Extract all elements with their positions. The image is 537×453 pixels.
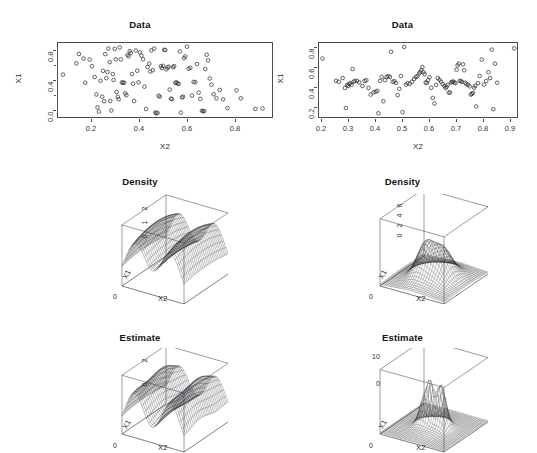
ztick-label: 10 bbox=[372, 353, 380, 360]
panel-title: Density bbox=[0, 176, 280, 187]
surface-plot-estimate-left bbox=[108, 348, 228, 453]
xtick-label: 0.6 bbox=[175, 124, 199, 133]
x-axis-label: X2 bbox=[158, 294, 168, 303]
origin-label: 0 bbox=[369, 293, 373, 300]
xtick-mark bbox=[348, 119, 349, 122]
ytick-label: 0.6 bbox=[307, 69, 316, 91]
x-axis-label: X2 bbox=[145, 142, 185, 151]
scatter-plot-frame-right bbox=[318, 42, 518, 118]
xtick-label: 0.3 bbox=[336, 124, 360, 133]
ytick-label: 0.0 bbox=[46, 112, 55, 134]
origin-label: 0 bbox=[113, 293, 117, 300]
y-axis-label: X1 bbox=[276, 67, 285, 91]
xtick-label: 0.8 bbox=[471, 124, 495, 133]
x-axis-label: X2 bbox=[416, 443, 426, 452]
surface-plot-density-left bbox=[108, 194, 228, 304]
scatter-plot-frame-left bbox=[57, 42, 273, 118]
panel-data-right: Data 0.8 0.6 0.4 0.2 0.2 0.3 0.4 0.5 0.6… bbox=[268, 14, 537, 169]
panel-density-left: Density 2 1 0 0 X2 X1 bbox=[0, 172, 280, 322]
xtick-mark bbox=[91, 119, 92, 122]
y-axis-label: X1 bbox=[14, 67, 23, 91]
xtick-label: 0.9 bbox=[498, 124, 522, 133]
panel-estimate-right: Estimate 10 0 0 X2 X1 bbox=[268, 330, 537, 453]
xtick-mark bbox=[187, 119, 188, 122]
panel-title: Data bbox=[0, 19, 280, 30]
x-axis-label: X2 bbox=[416, 294, 426, 303]
panel-title: Density bbox=[268, 176, 537, 187]
origin-label: 0 bbox=[369, 442, 373, 449]
xtick-label: 0.4 bbox=[363, 124, 387, 133]
surface-plot-density-right bbox=[364, 194, 488, 304]
x-axis-label: X2 bbox=[398, 142, 438, 151]
xtick-label: 0.4 bbox=[127, 124, 151, 133]
xtick-mark bbox=[456, 119, 457, 122]
ztick-label: 0 bbox=[141, 235, 148, 251]
xtick-mark bbox=[235, 119, 236, 122]
xtick-label: 0.8 bbox=[223, 124, 247, 133]
xtick-mark bbox=[375, 119, 376, 122]
surface-plot-estimate-right bbox=[364, 348, 488, 453]
panel-title: Estimate bbox=[0, 332, 280, 343]
panel-density-right: Density 6 4 2 0 0 X2 X1 bbox=[268, 172, 537, 322]
ztick-label: 0 bbox=[376, 380, 380, 387]
panel-title: Estimate bbox=[268, 332, 537, 343]
xtick-mark bbox=[483, 119, 484, 122]
x-axis-label: X2 bbox=[158, 443, 168, 452]
ztick-label: 0 bbox=[396, 234, 403, 250]
panel-data-left: Data 0.8 0.4 0.0 0.2 0.4 0.6 0.8 X2 X1 bbox=[0, 14, 280, 169]
panel-estimate-left: Estimate 2 0 0 X2 X1 bbox=[0, 330, 280, 453]
ztick-label: 0 bbox=[141, 383, 148, 399]
xtick-mark bbox=[139, 119, 140, 122]
panel-title: Data bbox=[268, 19, 537, 30]
xtick-label: 0.2 bbox=[79, 124, 103, 133]
ztick-label: 2 bbox=[141, 359, 148, 375]
scatter-points-left bbox=[58, 43, 272, 117]
ytick-label: 0.8 bbox=[307, 49, 316, 71]
ytick-label: 0.8 bbox=[46, 52, 55, 74]
xtick-mark bbox=[510, 119, 511, 122]
xtick-mark bbox=[321, 119, 322, 122]
xtick-label: 0.6 bbox=[417, 124, 441, 133]
ytick-label: 0.4 bbox=[307, 89, 316, 111]
origin-label: 0 bbox=[113, 442, 117, 449]
xtick-mark bbox=[429, 119, 430, 122]
figure-page: Data 0.8 0.4 0.0 0.2 0.4 0.6 0.8 X2 X1 D… bbox=[0, 0, 537, 453]
xtick-label: 0.7 bbox=[444, 124, 468, 133]
xtick-label: 0.2 bbox=[309, 124, 333, 133]
scatter-points-right bbox=[319, 43, 517, 117]
ytick-label: 0.4 bbox=[46, 82, 55, 104]
running-header bbox=[0, 0, 537, 9]
xtick-label: 0.5 bbox=[390, 124, 414, 133]
xtick-mark bbox=[402, 119, 403, 122]
